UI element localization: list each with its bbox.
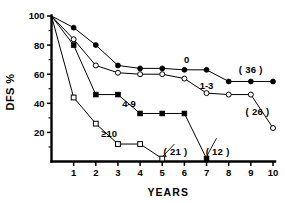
data-point-marker [138,66,143,71]
x-tick-label: 8 [226,167,231,178]
data-point-marker [160,156,165,161]
x-tick-label: 9 [248,167,253,178]
data-point-marker [115,63,120,68]
data-point-marker [182,67,187,72]
count-annotation: ( 21 ) [164,146,188,157]
data-point-marker [226,79,231,84]
data-curves [52,16,274,159]
data-point-marker [116,92,121,97]
series-label: 4-9 [122,98,136,109]
data-point-marker [248,79,253,84]
data-point-marker [182,76,187,81]
survival-chart: 2040608010012345678910 01-34-9≥10( 36 )(… [0,0,285,203]
x-tick-label: 7 [204,167,209,178]
y-tick-label: 60 [34,69,45,80]
chart-canvas: 2040608010012345678910 01-34-9≥10( 36 )(… [0,0,285,203]
data-point-marker [71,37,76,42]
x-tick-label: 3 [115,167,120,178]
x-tick-label: 1 [71,167,77,178]
data-point-marker [138,142,143,147]
count-annotation: ( 36 ) [239,64,263,75]
x-tick-label: 2 [93,167,98,178]
y-tick-label: 40 [34,98,45,109]
series-label: 0 [184,54,189,65]
data-point-marker [271,79,276,84]
data-point-marker [93,43,98,48]
y-tick-label: 80 [34,40,45,51]
data-point-marker [160,111,165,116]
x-tick-label: 4 [137,167,143,178]
data-point-marker [71,95,76,100]
x-tick-label: 5 [160,167,166,178]
data-point-marker [204,91,209,96]
x-tick-label: 10 [268,167,279,178]
x-axis-title: YEARS [147,186,189,198]
data-point-marker [138,111,143,116]
y-axis-title: DFS % [4,74,16,111]
data-point-marker [160,66,165,71]
data-markers [71,25,275,161]
data-point-marker [271,126,276,131]
data-point-marker [71,43,76,48]
data-point-marker [138,72,143,77]
y-tick-label: 100 [29,10,45,21]
y-tick-label: 20 [34,127,45,138]
data-point-marker [160,72,165,77]
data-point-marker [248,92,253,97]
axes [47,16,275,167]
data-point-marker [93,63,98,68]
data-point-marker [204,156,209,161]
series-label: ≥10 [101,128,117,139]
series-label: 1-3 [200,80,214,91]
x-tick-label: 6 [182,167,187,178]
data-point-marker [116,142,121,147]
data-point-marker [226,92,231,97]
count-annotation: ( 26 ) [246,106,270,117]
data-point-marker [182,111,187,116]
data-point-marker [71,25,76,30]
count-annotation: ( 12 ) [206,146,230,157]
data-point-marker [93,92,98,97]
data-point-marker [93,121,98,126]
data-point-marker [204,67,209,72]
data-point-marker [115,70,120,75]
